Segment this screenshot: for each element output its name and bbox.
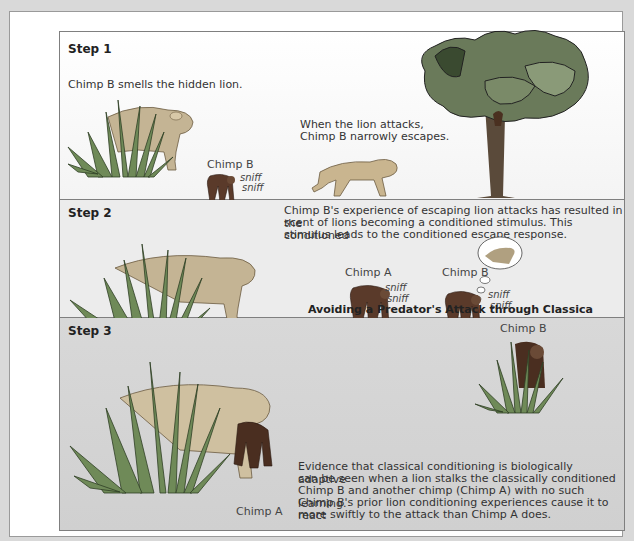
figure-frame: Step 1 Chimp B smells the hidden lion.: [9, 11, 623, 537]
step-2-chimp-b-sniff-1: sniff: [488, 290, 510, 300]
tree-icon: [405, 26, 595, 201]
step-2-panel: Step 2 Chimp B's experience of escaping …: [60, 200, 624, 318]
lion-icon: [310, 152, 405, 202]
step-2-label: Step 2: [68, 206, 112, 220]
step-1-chimp-b-label: Chimp B: [207, 158, 253, 171]
step-1-label: Step 1: [68, 42, 112, 56]
step-3-chimp-b-label: Chimp B: [500, 322, 546, 335]
hidden-lion-bush-icon: [68, 92, 198, 177]
step-1-sniff-2: sniff: [242, 183, 264, 193]
step-2-chimp-a-sniff-1: sniff: [385, 283, 407, 293]
step-1-text-left: Chimp B smells the hidden lion.: [68, 78, 243, 91]
lion-catching-chimp-a-icon: [70, 358, 290, 493]
step-3-panel: Step 3 Chimp B: [60, 318, 624, 530]
classical-conditioning-figure: Step 1 Chimp B smells the hidden lion.: [59, 31, 625, 531]
chimp-b-hiding-bush-icon: [475, 338, 570, 413]
step-2-chimp-a-label: Chimp A: [345, 266, 391, 279]
step-1-panel: Step 1 Chimp B smells the hidden lion.: [60, 32, 624, 200]
step-3-label: Step 3: [68, 324, 112, 338]
step-3-chimp-a-label: Chimp A: [236, 505, 282, 518]
figure-caption: Avoiding a Predator's Attack through Cla…: [308, 303, 593, 316]
step-3-text-5: more swiftly to the attack than Chimp A …: [298, 508, 551, 521]
